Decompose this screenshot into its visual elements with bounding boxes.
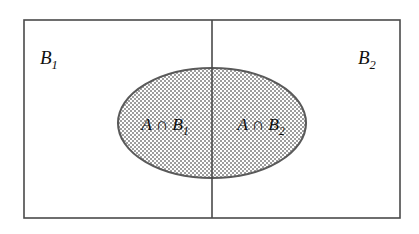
label-a-intersect-b1: A∩B1 — [140, 114, 188, 137]
label-a-intersect-b2-subscript: 2 — [279, 125, 285, 137]
label-b2-base: B — [358, 47, 370, 68]
label-a-intersect-b1-subscript: 1 — [183, 125, 189, 137]
label-a-intersect-b1-seta: A — [140, 114, 152, 134]
intersection-operator-icon-2: ∩ — [252, 115, 264, 134]
label-b1-subscript: 1 — [52, 58, 58, 72]
set-diagram-container: B1 B2 A∩B1 A∩B2 — [0, 0, 419, 234]
set-partition-diagram: B1 B2 A∩B1 A∩B2 — [0, 0, 419, 234]
label-a-intersect-b1-setb: B — [172, 114, 183, 134]
label-b2-subscript: 2 — [370, 58, 376, 72]
label-a-intersect-b2-seta: A — [236, 114, 248, 134]
label-a-intersect-b2: A∩B2 — [236, 114, 285, 137]
label-a-intersect-b2-setb: B — [268, 114, 279, 134]
label-b1-base: B — [40, 47, 52, 68]
intersection-operator-icon: ∩ — [156, 115, 168, 134]
